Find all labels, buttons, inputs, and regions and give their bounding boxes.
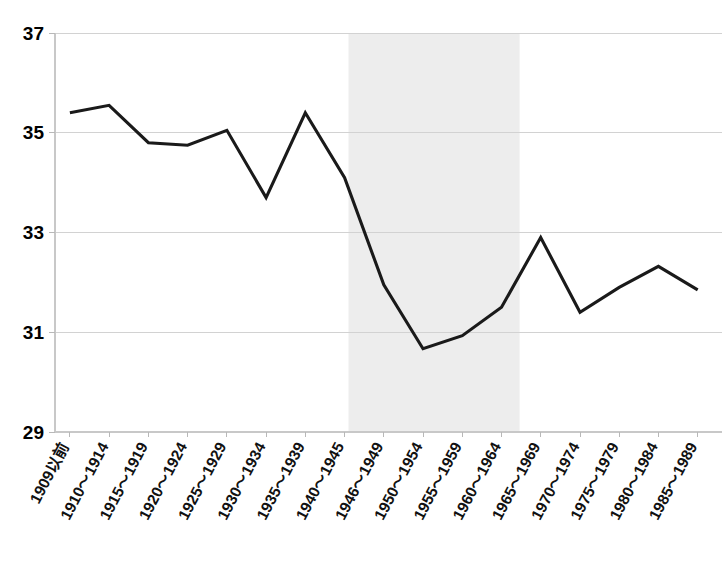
y-tick-label-35: 35 <box>23 122 45 143</box>
y-tick-label-33: 33 <box>23 222 44 243</box>
chart-container: 37 35 33 31 29 1909以前1910～19141915～19191… <box>0 0 728 561</box>
y-tick-label-29: 29 <box>23 422 44 443</box>
y-tick-label-37: 37 <box>23 23 44 44</box>
line-chart: 37 35 33 31 29 1909以前1910～19141915～19191… <box>0 0 728 561</box>
y-tick-label-31: 31 <box>23 322 45 343</box>
